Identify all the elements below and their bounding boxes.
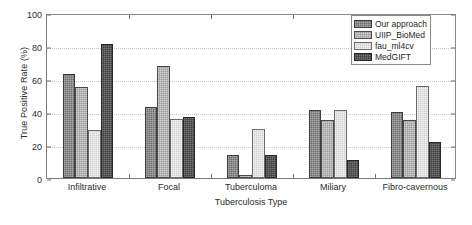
y-axis-tick-mark bbox=[47, 48, 51, 49]
y-axis-tick-mark bbox=[451, 15, 455, 16]
y-axis-title: True Positive Rate (%) bbox=[19, 13, 29, 173]
y-axis-tick-label: 60 bbox=[32, 76, 42, 86]
bar bbox=[321, 120, 334, 178]
x-axis-tick-label: Miliary bbox=[320, 182, 346, 192]
y-axis-tick-mark bbox=[451, 48, 455, 49]
bar bbox=[403, 120, 416, 178]
y-axis-tick-mark bbox=[451, 147, 455, 148]
y-axis-tick-label: 80 bbox=[32, 43, 42, 53]
x-axis-tick-mark bbox=[211, 174, 212, 178]
y-axis-tick-mark bbox=[47, 15, 51, 16]
x-axis-title: Tuberculosis Type bbox=[46, 197, 456, 207]
bar bbox=[88, 130, 101, 178]
x-axis-tick-label: Infiltrative bbox=[68, 182, 107, 192]
bar bbox=[183, 117, 196, 178]
bar bbox=[391, 112, 404, 178]
x-axis-tick-label: Focal bbox=[158, 182, 180, 192]
bar bbox=[309, 110, 322, 178]
legend-swatch-icon bbox=[354, 53, 372, 61]
bar-chart-figure: True Positive Rate (%) 020406080100 Tube… bbox=[0, 0, 472, 225]
bar bbox=[334, 110, 347, 178]
bar bbox=[265, 155, 278, 178]
legend-item[interactable]: fau_ml4cv bbox=[354, 40, 427, 51]
bar bbox=[239, 175, 252, 178]
x-axis-tick-mark bbox=[211, 15, 212, 19]
bar bbox=[429, 142, 442, 178]
bar bbox=[157, 66, 170, 178]
x-axis-tick-mark bbox=[293, 15, 294, 19]
x-axis-tick-mark bbox=[129, 15, 130, 19]
legend-item[interactable]: MedGIFT bbox=[354, 51, 427, 62]
x-axis-tick-mark bbox=[293, 174, 294, 178]
y-axis-tick-label: 100 bbox=[27, 10, 42, 20]
legend-label: fau_ml4cv bbox=[375, 41, 414, 51]
y-axis-tick-label: 20 bbox=[32, 142, 42, 152]
legend-item[interactable]: UIIP_BioMed bbox=[354, 29, 427, 40]
x-axis-tick-label: Tuberculoma bbox=[225, 182, 277, 192]
y-axis-tick-mark bbox=[451, 81, 455, 82]
bar-group bbox=[145, 15, 196, 178]
bar bbox=[101, 44, 114, 178]
y-axis-tick-label: 0 bbox=[37, 175, 42, 185]
legend-label: Our approach bbox=[375, 19, 427, 29]
y-axis-tick-mark bbox=[47, 81, 51, 82]
y-axis-tick-mark bbox=[451, 114, 455, 115]
bar bbox=[63, 74, 76, 178]
legend-swatch-icon bbox=[354, 42, 372, 50]
x-axis-tick-label: Fibro-cavernous bbox=[382, 182, 447, 192]
legend-label: MedGIFT bbox=[375, 52, 411, 62]
bar-group bbox=[227, 15, 278, 178]
y-axis-tick-mark bbox=[451, 180, 455, 181]
bar bbox=[145, 107, 158, 178]
bar bbox=[227, 155, 240, 178]
bar bbox=[75, 87, 88, 178]
legend-item[interactable]: Our approach bbox=[354, 18, 427, 29]
legend-swatch-icon bbox=[354, 31, 372, 39]
y-axis-tick-mark bbox=[47, 114, 51, 115]
legend-swatch-icon bbox=[354, 20, 372, 28]
bar bbox=[347, 160, 360, 178]
bar-group bbox=[63, 15, 114, 178]
legend: Our approachUIIP_BioMedfau_ml4cvMedGIFT bbox=[351, 15, 431, 65]
bar bbox=[170, 119, 183, 178]
bar bbox=[416, 86, 429, 178]
legend-label: UIIP_BioMed bbox=[375, 30, 425, 40]
x-axis-tick-mark bbox=[129, 174, 130, 178]
bar bbox=[252, 129, 265, 179]
y-axis-tick-mark bbox=[47, 180, 51, 181]
x-axis-tick-mark bbox=[375, 174, 376, 178]
y-axis-tick-label: 40 bbox=[32, 109, 42, 119]
y-axis-tick-mark bbox=[47, 147, 51, 148]
